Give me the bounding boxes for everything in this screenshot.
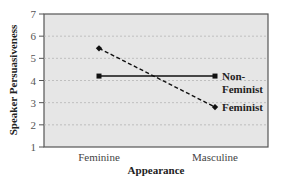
data-point <box>213 74 218 79</box>
y-tick-label: 3 <box>31 97 37 109</box>
series-label: Non- <box>222 70 246 82</box>
y-tick-label: 7 <box>31 8 37 20</box>
y-tick-label: 5 <box>31 52 37 64</box>
x-tick-label: Masculine <box>192 151 238 163</box>
y-tick-label: 1 <box>31 141 37 153</box>
series-label: Feminist <box>222 83 263 95</box>
series-label: Feminist <box>222 101 263 113</box>
x-tick-label: Feminine <box>78 151 120 163</box>
x-axis-label: Appearance <box>128 164 185 176</box>
data-point <box>97 74 102 79</box>
y-tick-label: 2 <box>31 119 37 131</box>
y-tick-label: 4 <box>31 75 37 87</box>
y-axis-label: Speaker Persuasiveness <box>7 24 19 135</box>
chart: 1234567 FeminineMasculine Non-FeministFe… <box>0 0 283 186</box>
y-tick-label: 6 <box>31 30 37 42</box>
